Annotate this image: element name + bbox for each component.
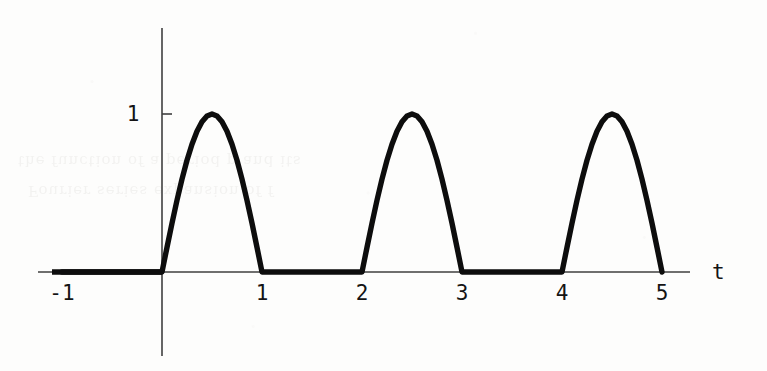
x-tick-label-1: 1 (242, 283, 282, 304)
figure-canvas: the function of a period p and its Fouri… (0, 0, 767, 371)
y-tick-label-1: 1 (118, 104, 148, 125)
x-tick-label-minus1: -1 (42, 283, 82, 304)
plot-area (0, 0, 767, 371)
x-tick-label-2: 2 (342, 283, 382, 304)
x-axis-name-label: t (712, 262, 725, 283)
x-tick-label-5: 5 (642, 283, 682, 304)
x-tick-label-3: 3 (442, 283, 482, 304)
function-curve-path (62, 114, 662, 272)
function-curve (52, 114, 662, 272)
x-tick-label-4: 4 (542, 283, 582, 304)
